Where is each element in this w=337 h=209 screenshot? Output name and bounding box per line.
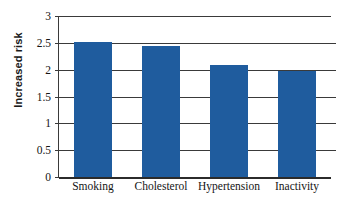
y-tick-label: 1.5 [37,91,51,103]
y-tick-mark-0 [55,177,59,178]
y-tick-label: 2.5 [37,37,51,49]
y-tick-mark-1.5 [55,97,59,98]
gridline-3 [59,16,331,17]
y-tick-label: 1 [45,117,51,129]
right-tick-mark-0.5 [331,150,336,151]
y-tick-label: 0.5 [37,144,51,156]
gridline-0 [59,177,331,179]
category-label-smoking: Smoking [72,180,114,192]
bar-inactivity [278,71,316,177]
bar-smoking [74,42,112,177]
y-tick-label: 0 [45,171,51,183]
y-tick-label: 3 [45,10,51,22]
y-tick-mark-3 [55,16,59,17]
y-tick-mark-2 [55,70,59,71]
bar-hypertension [210,65,248,177]
y-tick-label: 2 [45,64,51,76]
bar-cholesterol [142,46,180,177]
y-axis-title: Increased risk [12,0,24,140]
category-label-cholesterol: Cholesterol [134,180,187,192]
category-label-inactivity: Inactivity [275,180,319,192]
y-tick-mark-1 [55,123,59,124]
y-tick-mark-0.5 [55,150,59,151]
category-label-hypertension: Hypertension [198,180,260,192]
y-tick-mark-2.5 [55,43,59,44]
bar-chart-figure: Increased risk 00.511.522.53 SmokingChol… [0,0,337,209]
right-tick-mark-1.5 [331,97,336,98]
plot-area: 00.511.522.53 SmokingCholesterolHyperten… [59,16,331,177]
right-tick-mark-2.5 [331,43,336,44]
right-tick-mark-2 [331,70,336,71]
right-tick-mark-1 [331,123,336,124]
